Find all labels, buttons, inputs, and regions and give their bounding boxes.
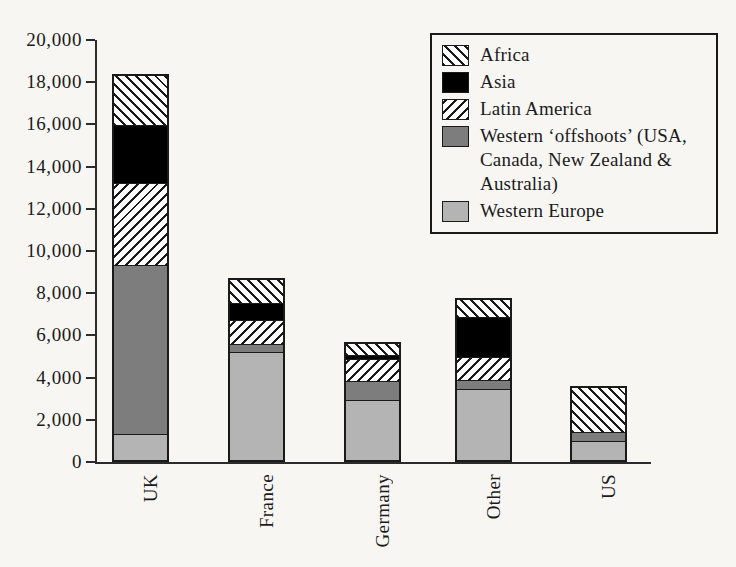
y-tick-label: 8,000 (36, 282, 82, 304)
x-axis-line (95, 462, 651, 464)
legend-item-label: Western ‘offshoots’ (USA, Canada, New Ze… (480, 124, 706, 196)
x-axis-label-uk: UK (140, 474, 162, 502)
bar-segment-latin-america[interactable] (457, 357, 510, 380)
x-axis-label-us: US (598, 474, 620, 499)
bar-segment-asia[interactable] (230, 303, 283, 320)
y-tick-mark (86, 250, 95, 252)
x-axis-label-other: Other (483, 474, 505, 519)
bar-segment-western-offshoots[interactable] (114, 265, 167, 435)
legend-swatch-icon (442, 45, 469, 66)
bar-segment-latin-america[interactable] (230, 320, 283, 343)
bar-uk[interactable] (112, 74, 169, 462)
y-tick-mark (86, 166, 95, 168)
bar-segment-latin-america[interactable] (346, 359, 399, 381)
bar-segment-western-offshoots[interactable] (457, 380, 510, 389)
y-tick-label: 18,000 (26, 71, 82, 93)
y-tick-label: 16,000 (26, 113, 82, 135)
y-tick-label: 0 (72, 451, 82, 473)
chart-page: 02,0004,0006,0008,00010,00012,00014,0001… (0, 0, 736, 567)
legend-item[interactable]: Africa (442, 43, 706, 67)
legend-item[interactable]: Western ‘offshoots’ (USA, Canada, New Ze… (442, 124, 706, 196)
bar-segment-western-europe[interactable] (572, 441, 625, 460)
bar-segment-africa[interactable] (457, 300, 510, 316)
bar-segment-africa[interactable] (114, 76, 167, 126)
bar-germany[interactable] (344, 342, 401, 462)
bar-segment-latin-america[interactable] (114, 183, 167, 265)
bar-segment-western-offshoots[interactable] (230, 344, 283, 352)
legend-item[interactable]: Latin America (442, 97, 706, 121)
y-tick-mark (86, 292, 95, 294)
y-tick-label: 2,000 (36, 409, 82, 431)
legend-item-label: Western Europe (480, 199, 604, 223)
y-tick-label: 20,000 (26, 29, 82, 51)
bar-segment-western-offshoots[interactable] (572, 432, 625, 442)
y-tick-label: 10,000 (26, 240, 82, 262)
y-tick-mark (86, 81, 95, 83)
bar-segment-western-europe[interactable] (457, 389, 510, 460)
bar-other[interactable] (455, 298, 512, 462)
bar-segment-asia[interactable] (457, 317, 510, 357)
legend-swatch-icon (442, 99, 469, 120)
legend-item-label: Asia (480, 70, 516, 94)
bar-segment-western-europe[interactable] (346, 400, 399, 460)
y-tick-mark (86, 39, 95, 41)
y-axis-line (95, 40, 97, 464)
bar-segment-africa[interactable] (230, 280, 283, 303)
y-tick-mark (86, 461, 95, 463)
chart-legend: AfricaAsiaLatin AmericaWestern ‘offshoot… (430, 33, 718, 234)
bar-segment-africa[interactable] (572, 388, 625, 431)
x-axis-label-france: France (256, 474, 278, 528)
y-tick-mark (86, 208, 95, 210)
bar-segment-western-europe[interactable] (114, 434, 167, 460)
bar-segment-africa[interactable] (346, 344, 399, 355)
x-axis-label-germany: Germany (372, 474, 394, 548)
legend-item[interactable]: Asia (442, 70, 706, 94)
bar-segment-asia[interactable] (114, 125, 167, 182)
y-tick-mark (86, 334, 95, 336)
y-tick-label: 12,000 (26, 198, 82, 220)
bar-segment-western-europe[interactable] (230, 352, 283, 460)
y-tick-mark (86, 419, 95, 421)
legend-item-label: Africa (480, 43, 530, 67)
legend-swatch-icon (442, 126, 469, 147)
bar-france[interactable] (228, 278, 285, 462)
legend-swatch-icon (442, 72, 469, 93)
y-tick-label: 6,000 (36, 324, 82, 346)
bar-us[interactable] (570, 386, 627, 462)
legend-item-label: Latin America (480, 97, 592, 121)
y-tick-label: 4,000 (36, 367, 82, 389)
y-tick-mark (86, 123, 95, 125)
legend-swatch-icon (442, 201, 469, 222)
y-tick-mark (86, 377, 95, 379)
y-tick-label: 14,000 (26, 156, 82, 178)
bar-segment-western-offshoots[interactable] (346, 381, 399, 400)
legend-item[interactable]: Western Europe (442, 199, 706, 223)
